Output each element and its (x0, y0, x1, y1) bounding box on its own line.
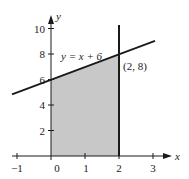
y-tick-label: 8 (40, 48, 46, 60)
x-tick-label: −1 (11, 162, 23, 174)
intersection-point-label: (2, 8) (123, 60, 147, 73)
y-tick-label: 2 (40, 125, 46, 137)
y-tick-label: 10 (34, 23, 46, 35)
chart: −1 0 1 2 3 2 4 6 8 10 x y y = x + 6 (2, … (0, 0, 189, 179)
x-axis-label: x (174, 150, 180, 162)
x-tick-label: 0 (54, 162, 60, 174)
y-axis-label: y (55, 10, 61, 22)
x-tick-label: 3 (150, 162, 156, 174)
line-equation-label: y = x + 6 (60, 50, 103, 62)
y-axis-arrow-icon (48, 15, 54, 24)
y-tick-label: 4 (40, 99, 46, 111)
chart-canvas: −1 0 1 2 3 2 4 6 8 10 x y y = x + 6 (2, … (0, 0, 189, 179)
shaded-region (51, 54, 119, 156)
x-tick-label: 1 (83, 162, 89, 174)
x-axis-arrow-icon (163, 153, 172, 159)
x-tick-label: 2 (116, 162, 122, 174)
